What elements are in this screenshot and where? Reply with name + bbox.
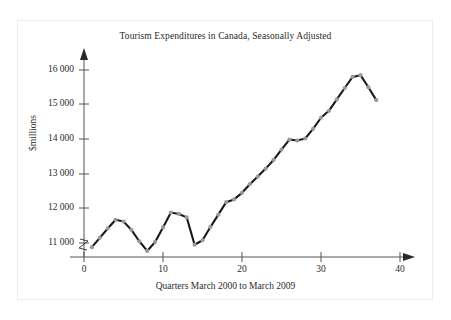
x-tick-label: 10 xyxy=(148,264,178,274)
data-point xyxy=(366,85,370,89)
data-point xyxy=(161,225,165,229)
data-point xyxy=(303,136,307,140)
data-point xyxy=(335,97,339,101)
data-point xyxy=(351,75,355,79)
data-point xyxy=(224,200,228,204)
data-point xyxy=(272,158,276,162)
y-tick-label: 11 000 xyxy=(22,237,74,247)
data-point xyxy=(295,138,299,142)
data-point xyxy=(114,218,118,222)
y-tick-label: 14 000 xyxy=(22,133,74,143)
data-point xyxy=(232,197,236,201)
data-point xyxy=(193,243,197,247)
y-axis-arrow-icon xyxy=(80,48,88,60)
data-point xyxy=(374,98,378,102)
data-point xyxy=(90,245,94,249)
data-point xyxy=(177,212,181,216)
y-tick-label: 12 000 xyxy=(22,202,74,212)
data-point xyxy=(208,225,212,229)
data-point xyxy=(343,86,347,90)
x-tick-label: 30 xyxy=(306,264,336,274)
chart-page: Tourism Expenditures in Canada, Seasonal… xyxy=(0,0,451,320)
x-tick-label: 0 xyxy=(69,264,99,274)
data-point xyxy=(121,219,125,223)
data-point xyxy=(185,215,189,219)
data-point xyxy=(248,182,252,186)
y-tick-label: 15 000 xyxy=(22,98,74,108)
data-point xyxy=(98,236,102,240)
data-point xyxy=(153,240,157,244)
data-series-line xyxy=(92,75,376,251)
data-point xyxy=(358,73,362,77)
x-axis-arrow-icon xyxy=(403,253,415,261)
data-point xyxy=(216,213,220,217)
data-point-markers xyxy=(90,73,379,253)
data-point xyxy=(264,167,268,171)
line-chart-plot xyxy=(0,0,451,320)
data-point xyxy=(256,174,260,178)
y-tick-label: 16 000 xyxy=(22,64,74,74)
data-point xyxy=(145,249,149,253)
data-point xyxy=(129,228,133,232)
data-point xyxy=(311,127,315,131)
y-tick-label: 13 000 xyxy=(22,168,74,178)
data-point xyxy=(240,191,244,195)
data-point xyxy=(106,226,110,230)
data-point xyxy=(327,109,331,113)
data-point xyxy=(279,147,283,151)
data-point xyxy=(137,239,141,243)
x-tick-label: 20 xyxy=(227,264,257,274)
data-point xyxy=(200,238,204,242)
data-point xyxy=(287,137,291,141)
data-point xyxy=(319,116,323,120)
data-point xyxy=(169,210,173,214)
x-tick-label: 40 xyxy=(385,264,415,274)
